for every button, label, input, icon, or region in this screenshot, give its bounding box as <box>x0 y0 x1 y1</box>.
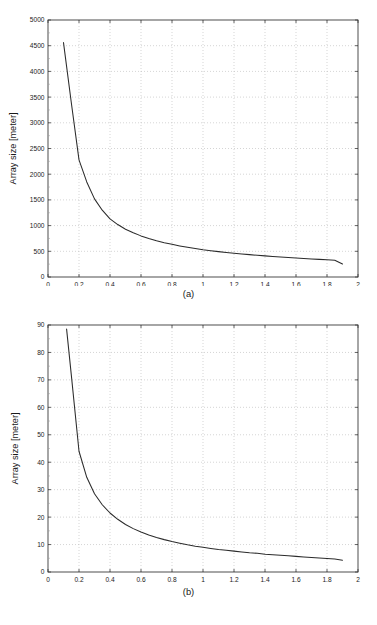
svg-text:2500: 2500 <box>30 145 45 152</box>
plot-area-b: 00.20.40.60.811.21.41.61.820102030405060… <box>0 312 377 584</box>
svg-text:500: 500 <box>33 248 44 255</box>
svg-text:10: 10 <box>37 541 45 548</box>
chart-a: 00.20.40.60.811.21.41.61.820500100015002… <box>0 0 377 286</box>
svg-text:0.4: 0.4 <box>105 576 114 583</box>
series-line <box>67 329 343 560</box>
svg-text:0: 0 <box>41 568 45 575</box>
svg-text:1500: 1500 <box>30 196 45 203</box>
svg-text:5000: 5000 <box>30 16 45 23</box>
svg-text:2: 2 <box>356 281 360 287</box>
svg-text:Array size [meter]: Array size [meter] <box>8 113 18 185</box>
svg-text:2: 2 <box>356 576 360 583</box>
svg-text:50: 50 <box>37 431 45 438</box>
svg-text:1.2: 1.2 <box>229 576 238 583</box>
svg-text:1: 1 <box>201 576 205 583</box>
svg-text:0.6: 0.6 <box>136 576 145 583</box>
svg-text:0: 0 <box>46 281 50 287</box>
plot-area-a: 00.20.40.60.811.21.41.61.820500100015002… <box>0 0 377 286</box>
svg-text:70: 70 <box>37 376 45 383</box>
figure-caption-b: (b) <box>0 585 377 598</box>
figure-caption-a: (a) <box>0 287 377 300</box>
svg-text:0.6: 0.6 <box>136 281 145 287</box>
svg-text:1000: 1000 <box>30 222 45 229</box>
svg-text:Array size [meter]: Array size [meter] <box>10 413 20 485</box>
svg-text:4000: 4000 <box>30 68 45 75</box>
svg-text:0.8: 0.8 <box>167 281 176 287</box>
svg-text:60: 60 <box>37 404 45 411</box>
svg-text:0: 0 <box>41 273 45 280</box>
svg-text:2000: 2000 <box>30 171 45 178</box>
svg-text:4500: 4500 <box>30 42 45 49</box>
svg-text:0.2: 0.2 <box>74 281 83 287</box>
svg-text:1.4: 1.4 <box>260 576 269 583</box>
svg-text:0.4: 0.4 <box>105 281 114 287</box>
svg-text:1.8: 1.8 <box>322 281 331 287</box>
svg-text:0.2: 0.2 <box>74 576 83 583</box>
svg-text:20: 20 <box>37 514 45 521</box>
figure-b: 00.20.40.60.811.21.41.61.820102030405060… <box>0 312 377 612</box>
svg-text:1.8: 1.8 <box>322 576 331 583</box>
svg-text:80: 80 <box>37 349 45 356</box>
svg-text:1.4: 1.4 <box>260 281 269 287</box>
svg-text:0: 0 <box>46 576 50 583</box>
svg-text:90: 90 <box>37 321 45 328</box>
svg-text:0.8: 0.8 <box>167 576 176 583</box>
svg-text:3000: 3000 <box>30 119 45 126</box>
figure-a: 00.20.40.60.811.21.41.61.820500100015002… <box>0 0 377 312</box>
svg-text:1.2: 1.2 <box>229 281 238 287</box>
svg-text:1.6: 1.6 <box>291 281 300 287</box>
svg-text:1: 1 <box>201 281 205 287</box>
svg-text:40: 40 <box>37 459 45 466</box>
svg-text:1.6: 1.6 <box>291 576 300 583</box>
svg-text:30: 30 <box>37 486 45 493</box>
chart-b: 00.20.40.60.811.21.41.61.820102030405060… <box>0 312 377 584</box>
svg-text:3500: 3500 <box>30 94 45 101</box>
